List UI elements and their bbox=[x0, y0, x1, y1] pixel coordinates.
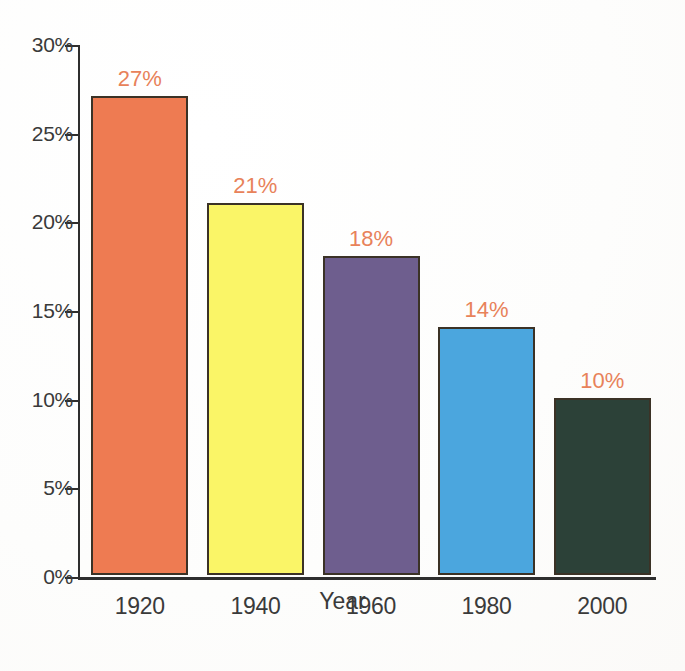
y-axis-tick-label: 15% bbox=[32, 300, 73, 321]
bar-fill bbox=[325, 258, 418, 573]
bar-fill bbox=[93, 98, 186, 573]
y-axis-tick-label: 30% bbox=[32, 34, 73, 55]
bar-fill bbox=[209, 205, 302, 573]
y-axis-tick-label: 10% bbox=[32, 389, 73, 410]
x-axis-title: Year bbox=[319, 588, 365, 615]
bar-value-label: 10% bbox=[580, 370, 624, 392]
bar-value-label: 27% bbox=[118, 68, 162, 90]
x-axis-line bbox=[78, 577, 656, 580]
x-axis-tick-label: 2000 bbox=[577, 593, 627, 620]
y-axis-tick-label: 20% bbox=[32, 211, 73, 232]
x-axis-tick-label: 1980 bbox=[462, 593, 512, 620]
bar-value-label: 14% bbox=[465, 299, 509, 321]
y-axis-tick-label: 25% bbox=[32, 123, 73, 144]
y-axis-tick-label: 0% bbox=[43, 566, 73, 587]
x-axis-tick-label: 1920 bbox=[115, 593, 165, 620]
bar[interactable] bbox=[207, 203, 304, 575]
bar[interactable] bbox=[91, 96, 188, 575]
plot-area: 0%5%10%15%20%25%30% 27%21%18%14%10% 1920… bbox=[78, 45, 656, 578]
x-axis-tick-label: 1940 bbox=[230, 593, 280, 620]
bar-value-label: 18% bbox=[349, 228, 393, 250]
bar-fill bbox=[556, 400, 649, 573]
y-axis-tick-label: 5% bbox=[43, 477, 73, 498]
bar[interactable] bbox=[438, 327, 535, 575]
bar[interactable] bbox=[323, 256, 420, 575]
bar-value-label: 21% bbox=[233, 175, 277, 197]
bar-chart: 0%5%10%15%20%25%30% 27%21%18%14%10% 1920… bbox=[0, 0, 685, 671]
bar-fill bbox=[440, 329, 533, 573]
bar[interactable] bbox=[554, 398, 651, 575]
y-axis-line bbox=[78, 45, 80, 579]
